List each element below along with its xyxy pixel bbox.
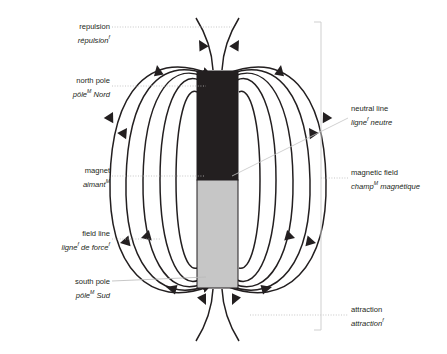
leader-line: [112, 277, 206, 281]
field-arrow: [305, 128, 319, 141]
gender-mark: f: [109, 34, 110, 40]
label-north-pole: north pole pôleM Nord: [28, 76, 110, 100]
gender-mark: f: [109, 241, 110, 247]
label-field-line-fr: lignef de forcef: [14, 239, 110, 253]
label-repulsion-en: repulsion: [28, 22, 110, 32]
magnetic-field-diagram: repulsion répulsionf north pole pôleM No…: [0, 0, 447, 354]
label-neutral-line-en: neutral line: [351, 104, 392, 114]
field-arrow: [141, 228, 155, 241]
field-arrow: [281, 228, 295, 241]
magnet-north-half: [197, 71, 238, 180]
label-field-line-en: field line: [14, 229, 110, 239]
leader-line: [232, 118, 348, 176]
label-attraction-en: attraction: [351, 305, 384, 315]
gender-mark: M: [106, 178, 110, 184]
field-line: [234, 73, 293, 286]
label-field-line: field line lignef de forcef: [14, 229, 110, 253]
field-arrow: [318, 112, 332, 126]
label-south-pole-fr: pôleM Sud: [28, 287, 110, 301]
label-attraction-fr: attractionf: [351, 315, 384, 329]
field-arrow: [272, 65, 287, 80]
field-arrow: [196, 291, 210, 305]
field-arrow: [228, 40, 241, 53]
label-north-pole-fr: pôleM Nord: [28, 86, 110, 100]
magnet-south-half: [197, 180, 238, 288]
field-line: [126, 70, 206, 290]
label-repulsion-fr: répulsionf: [28, 32, 110, 46]
field-line: [237, 78, 276, 281]
label-attraction: attraction attractionf: [351, 305, 384, 329]
label-south-pole: south pole pôleM Sud: [28, 277, 110, 301]
field-line: [230, 70, 310, 290]
label-magnet-fr: aimantM: [28, 176, 110, 190]
label-neutral-line-fr: lignef neutre: [351, 114, 392, 128]
magnetic-field-bracket: [314, 22, 321, 330]
field-arrow: [228, 291, 242, 305]
bar-magnet: [197, 71, 238, 288]
field-line: [176, 91, 197, 268]
field-line: [143, 73, 202, 286]
field-line: [160, 78, 199, 281]
gender-mark: f: [382, 317, 383, 323]
label-magnet-en: magnet: [28, 166, 110, 176]
label-magnet: magnet aimantM: [28, 166, 110, 190]
label-magnetic-field-en: magnetic field: [351, 168, 420, 178]
label-neutral-line: neutral line lignef neutre: [351, 104, 392, 128]
field-line: [239, 91, 260, 268]
label-south-pole-en: south pole: [28, 277, 110, 287]
label-magnetic-field: magnetic field champM magnétique: [351, 168, 420, 192]
label-magnetic-field-fr: champM magnétique: [351, 178, 420, 192]
label-repulsion: repulsion répulsionf: [28, 22, 110, 46]
field-arrow: [117, 128, 131, 141]
label-north-pole-en: north pole: [28, 76, 110, 86]
field-arrow: [103, 112, 117, 126]
